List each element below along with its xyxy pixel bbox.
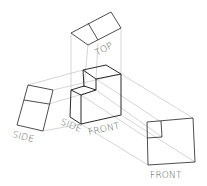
projection-diagram: TOP SIDE SIDE FRONT FRONT xyxy=(0,0,207,186)
side-view-label: SIDE xyxy=(12,129,36,144)
side-view: SIDE xyxy=(12,85,53,144)
front-view-label: FRONT xyxy=(150,170,182,180)
object-side-label: SIDE xyxy=(59,117,83,134)
object-front-label: FRONT xyxy=(87,121,120,137)
front-view: FRONT xyxy=(147,118,195,180)
top-view: TOP xyxy=(71,12,121,58)
top-view-label: TOP xyxy=(93,40,114,58)
